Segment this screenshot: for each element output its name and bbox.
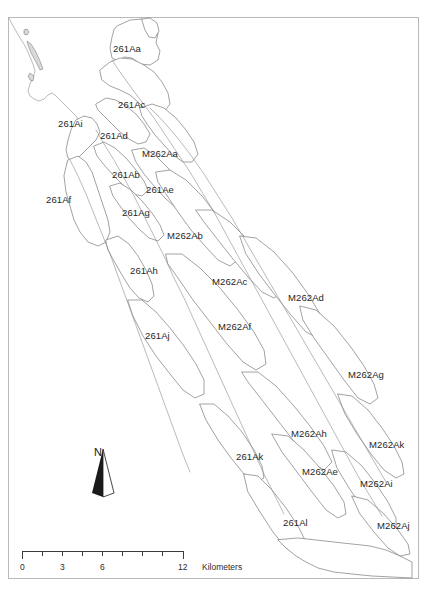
offshore-islet-south-icon: [28, 73, 34, 81]
region-label-261Ac: 261Ac: [118, 100, 145, 110]
region-label-M262Ab: M262Ab: [167, 231, 203, 241]
scale-tick-3: [82, 551, 83, 556]
scale-tick-8: [183, 551, 184, 559]
scale-tick-5: [122, 551, 123, 556]
region-261Aj[interactable]: [128, 300, 204, 398]
map-canvas: [0, 0, 433, 592]
region-261Ak[interactable]: [200, 404, 264, 482]
scale-tick-7: [162, 551, 163, 556]
scale-tick-4: [102, 551, 103, 556]
region-label-261Ae: 261Ae: [146, 185, 174, 195]
region-label-M262Aa: M262Aa: [142, 149, 178, 159]
region-label-M262Ae: M262Ae: [302, 467, 338, 477]
scale-tick-1: [42, 551, 43, 556]
scale-bar-line: [22, 551, 184, 552]
region-label-261Ah: 261Ah: [130, 266, 158, 276]
region-label-261Ai: 261Ai: [58, 119, 83, 129]
scale-bar: [22, 551, 184, 561]
region-label-261Ag: 261Ag: [122, 208, 150, 218]
region-label-261Aa: 261Aa: [113, 44, 141, 54]
region-label-261Ab: 261Ab: [112, 170, 140, 180]
north-arrow-icon: [88, 445, 118, 505]
scale-label-6: 6: [100, 562, 105, 572]
region-label-M262Aj: M262Aj: [377, 521, 410, 531]
scale-tick-2: [62, 551, 63, 556]
region-label-261Af: 261Af: [46, 195, 71, 205]
scale-label-0: 0: [20, 562, 25, 572]
region-label-261Ad: 261Ad: [100, 131, 128, 141]
scale-label-3: 3: [60, 562, 65, 572]
region-label-M262Ak: M262Ak: [369, 440, 404, 450]
region-label-M262Ad: M262Ad: [288, 293, 324, 303]
region-label-M262Ai: M262Ai: [360, 479, 393, 489]
region-label-M262Ah: M262Ah: [291, 429, 327, 439]
region-label-M262Ac: M262Ac: [212, 277, 247, 287]
scale-tick-0: [22, 551, 23, 559]
region-label-261Al: 261Al: [283, 518, 308, 528]
scale-units-label: Kilometers: [202, 562, 242, 572]
region-label-261Aj: 261Aj: [145, 331, 170, 341]
scale-label-12: 12: [178, 562, 187, 572]
region-label-M262Ag: M262Ag: [348, 370, 384, 380]
scale-tick-6: [142, 551, 143, 556]
offshore-islet-north-icon: [24, 29, 29, 35]
region-label-261Ak: 261Ak: [236, 452, 263, 462]
region-label-M262Af: M262Af: [218, 322, 251, 332]
